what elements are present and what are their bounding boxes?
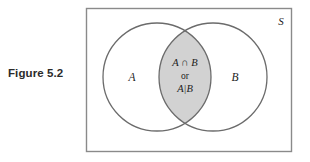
intersection-label-line2: or [181,71,190,81]
intersection-label-line1: A ∩ B [171,57,198,68]
venn-diagram: S A B A ∩ B or A|B [0,0,310,162]
intersection-label-line3: A|B [176,83,193,94]
figure-container: Figure 5.2 S A B A ∩ B or A|B [0,0,310,162]
set-a-label: A [127,71,136,83]
universal-set-label: S [278,15,284,27]
set-b-label: B [231,71,238,83]
